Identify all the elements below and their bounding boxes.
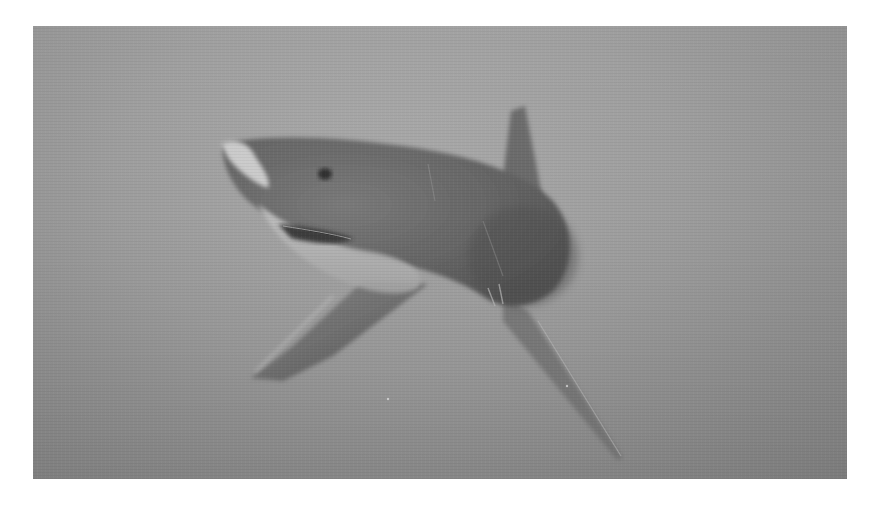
shark-illustration: [33, 26, 847, 479]
left-pectoral-fin: [251, 281, 428, 381]
shark-photo: [33, 26, 847, 479]
shark-eye: [318, 168, 332, 180]
right-pectoral-fin: [503, 296, 623, 460]
